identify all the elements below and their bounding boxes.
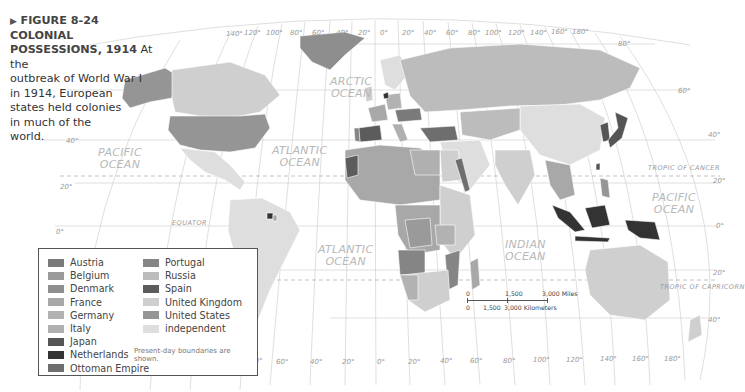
- legend-item-germany: Germany: [48, 309, 149, 322]
- legend-label: Austria: [70, 257, 104, 268]
- ocean-label-pacific-east: PACIFIC OCEAN: [652, 192, 696, 216]
- austria-hungary: [395, 108, 422, 122]
- ocean-label-arctic: ARCTIC OCEAN: [330, 76, 372, 100]
- legend-swatch: [48, 298, 64, 306]
- legend-label: independent: [165, 323, 226, 334]
- scale-bar: 0 1,500 3,000 Miles 0 1,500 3,000 Kilome…: [466, 290, 586, 318]
- figure-marker-icon: ▶: [10, 16, 17, 26]
- lon-label: 100°: [533, 356, 550, 364]
- legend-swatch: [48, 325, 64, 333]
- dutch-east-indies: [552, 205, 585, 232]
- legend-note: Present-day boundaries are shown.: [134, 347, 257, 363]
- italy: [392, 124, 408, 142]
- map-legend: Austria Belgium Denmark France Germany I…: [38, 248, 258, 376]
- lat-label: 40°: [66, 137, 78, 145]
- ocean-label-atlantic-south: ATLANTIC OCEAN: [318, 244, 373, 268]
- lat-label: 20°: [713, 177, 725, 185]
- caption-text-2: outbreak of World War I: [10, 72, 142, 85]
- east-africa: [440, 185, 475, 260]
- scale-km-mid: 1,500: [483, 304, 501, 311]
- lon-label: 20°: [408, 358, 420, 366]
- ocean-label-pacific-west: PACIFIC OCEAN: [98, 147, 142, 171]
- se-asia: [545, 160, 575, 200]
- lat-label: 0°: [716, 222, 724, 230]
- lat-label: 0°: [56, 228, 64, 236]
- netherlands-eu: [383, 92, 389, 99]
- figure-number: FIGURE 8-24: [20, 14, 98, 27]
- scale-tick: [507, 298, 508, 303]
- ocean-label-line: OCEAN: [318, 256, 373, 268]
- lon-label: 140°: [600, 355, 617, 363]
- central-asia: [460, 108, 520, 140]
- new-zealand: [688, 315, 702, 342]
- lat-label: 80°: [618, 40, 630, 48]
- ocean-label-line: OCEAN: [272, 157, 327, 169]
- legend-swatch: [48, 285, 64, 293]
- legend-label: Ottoman Empire: [70, 363, 149, 374]
- russia: [400, 44, 640, 112]
- figure-title-line1: COLONIAL: [10, 29, 73, 42]
- legend-item-russia: Russia: [143, 269, 242, 282]
- scale-miles-0: 0: [466, 290, 470, 297]
- lon-label: 60°: [312, 29, 324, 37]
- caption-text-5: in much of the: [10, 116, 91, 129]
- tropic-of-capricorn-label: TROPIC OF CAPRICORN: [660, 283, 745, 291]
- lon-label: 100°: [266, 29, 283, 37]
- legend-item-united-states: United States: [143, 309, 242, 322]
- lat-label: 40°: [708, 316, 720, 324]
- lon-label: 120°: [508, 29, 525, 37]
- greenland: [300, 32, 365, 70]
- lat-label: 20°: [713, 269, 725, 277]
- java: [575, 236, 610, 242]
- figure-title-line2: POSSESSIONS, 1914: [10, 43, 137, 56]
- legend-swatch: [143, 311, 159, 319]
- scale-miles-mid: 1,500: [505, 290, 523, 297]
- lon-label: 140°: [530, 29, 547, 37]
- lon-label: 80°: [290, 29, 302, 37]
- tropic-of-cancer-label: TROPIC OF CANCER: [648, 164, 720, 172]
- congo: [405, 218, 432, 248]
- legend-item-independent: independent: [143, 322, 242, 335]
- legend-label: United Kingdom: [165, 297, 242, 308]
- legend-swatch: [48, 338, 64, 346]
- legend-swatch: [48, 259, 64, 267]
- lon-label: 80°: [468, 29, 480, 37]
- new-guinea: [625, 220, 660, 240]
- libya: [410, 150, 440, 175]
- lon-label: 40°: [336, 29, 348, 37]
- lon-label: 0°: [377, 358, 385, 366]
- figure-caption: ▶ FIGURE 8-24 COLONIAL POSSESSIONS, 1914…: [10, 14, 160, 145]
- sw-africa: [400, 275, 418, 300]
- france: [368, 104, 388, 122]
- legend-item-ottoman-empire: Ottoman Empire: [48, 362, 149, 375]
- lon-label: 40°: [440, 357, 452, 365]
- philippines: [600, 178, 610, 198]
- legend-swatch: [48, 364, 64, 372]
- united-states: [168, 114, 270, 152]
- lat-label: 60°: [678, 87, 690, 95]
- equator-label: EQUATOR: [172, 219, 207, 227]
- legend-label: Germany: [70, 310, 114, 321]
- legend-swatch: [143, 298, 159, 306]
- legend-swatch: [143, 325, 159, 333]
- dutch-guiana: [267, 213, 273, 219]
- morocco-spain: [345, 155, 358, 178]
- legend-swatch: [143, 272, 159, 280]
- legend-label: France: [70, 297, 102, 308]
- taiwan: [596, 163, 600, 170]
- ocean-label-line: OCEAN: [330, 88, 372, 100]
- madagascar: [470, 258, 480, 290]
- french-guiana: [273, 215, 277, 221]
- legend-item-portugal: Portugal: [143, 256, 242, 269]
- legend-column-2: Portugal Russia Spain United Kingdom Uni…: [143, 256, 242, 335]
- caption-text-4: states held colonies: [10, 101, 121, 114]
- lat-label: 40°: [708, 131, 720, 139]
- ottoman: [420, 126, 458, 142]
- scale-tick: [467, 298, 468, 303]
- ocean-label-atlantic-north: ATLANTIC OCEAN: [272, 145, 327, 169]
- legend-label: United States: [165, 310, 230, 321]
- ocean-label-line: OCEAN: [652, 204, 696, 216]
- legend-label: Japan: [70, 336, 97, 347]
- lat-label: 20°: [60, 183, 72, 191]
- scale-miles-end: 3,000 Miles: [542, 290, 578, 297]
